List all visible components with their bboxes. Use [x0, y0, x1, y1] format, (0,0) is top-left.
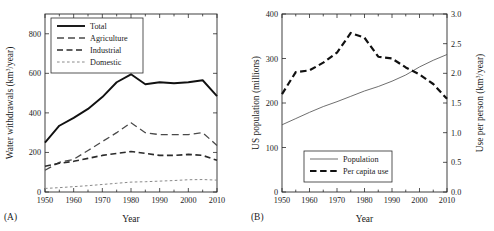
- x-tick-label: 1960: [301, 196, 317, 205]
- series-line-total: [45, 74, 217, 142]
- series-line-industrial: [45, 151, 217, 166]
- legend-label-domestic: Domestic: [90, 58, 122, 67]
- y2-tick-label: 2.5: [451, 40, 461, 49]
- x-tick-label: 1990: [384, 196, 400, 205]
- y-tick-label: 800: [29, 30, 41, 39]
- legend-label-agriculture: Agriculture: [90, 34, 128, 43]
- panel-label: (B): [251, 212, 264, 223]
- legend-label-industrial: Industrial: [90, 46, 122, 55]
- legend-label-total: Total: [90, 22, 107, 31]
- x-tick-label: 2010: [439, 196, 455, 205]
- panel-a-water-withdrawals: 1950196019701980199020002010020040060080…: [0, 0, 247, 231]
- y-tick-label: 0: [274, 188, 278, 197]
- y2-tick-label: 0.0: [451, 188, 461, 197]
- x-tick-label: 1950: [37, 196, 53, 205]
- two-panel-figure: 1950196019701980199020002010020040060080…: [0, 0, 494, 231]
- x-tick-label: 1960: [65, 196, 81, 205]
- x-tick-label: 2000: [411, 196, 427, 205]
- series-line-population: [282, 55, 447, 125]
- y-tick-label: 100: [266, 144, 278, 153]
- y-axis-title: Water withdrawals (km3/year): [5, 47, 16, 160]
- panel-b-population-percapita: 1950196019701980199020002010010020030040…: [247, 0, 494, 231]
- series-line-agriculture: [45, 123, 217, 170]
- y-tick-label: 600: [29, 69, 41, 78]
- x-tick-label: 2010: [209, 196, 225, 205]
- x-tick-label: 2000: [180, 196, 196, 205]
- y2-tick-label: 1.0: [451, 129, 461, 138]
- y2-tick-label: 3.0: [451, 10, 461, 19]
- y-tick-label: 400: [266, 10, 278, 19]
- y-tick-label: 200: [29, 148, 41, 157]
- x-axis-title: Year: [356, 214, 374, 224]
- x-tick-label: 1980: [123, 196, 139, 205]
- y-tick-label: 200: [266, 99, 278, 108]
- x-tick-label: 1980: [356, 196, 372, 205]
- y-tick-label: 300: [266, 55, 278, 64]
- series-line-domestic: [45, 180, 217, 189]
- x-axis-title: Year: [122, 214, 140, 224]
- y-axis-title: US population (millions): [251, 56, 262, 150]
- legend-label-population: Population: [343, 155, 378, 164]
- y2-tick-label: 2.0: [451, 69, 461, 78]
- x-tick-label: 1970: [94, 196, 110, 205]
- y-tick-label: 0: [37, 188, 41, 197]
- y2-axis-title: Use per person (km3/year): [475, 54, 486, 152]
- y2-tick-label: 0.5: [451, 158, 461, 167]
- y2-tick-label: 1.5: [451, 99, 461, 108]
- x-tick-label: 1990: [151, 196, 167, 205]
- x-tick-label: 1970: [329, 196, 345, 205]
- panel-label: (A): [4, 212, 17, 223]
- y-tick-label: 400: [29, 109, 41, 118]
- x-tick-label: 1950: [274, 196, 290, 205]
- legend-label-per-capita-use: Per capita use: [343, 167, 389, 176]
